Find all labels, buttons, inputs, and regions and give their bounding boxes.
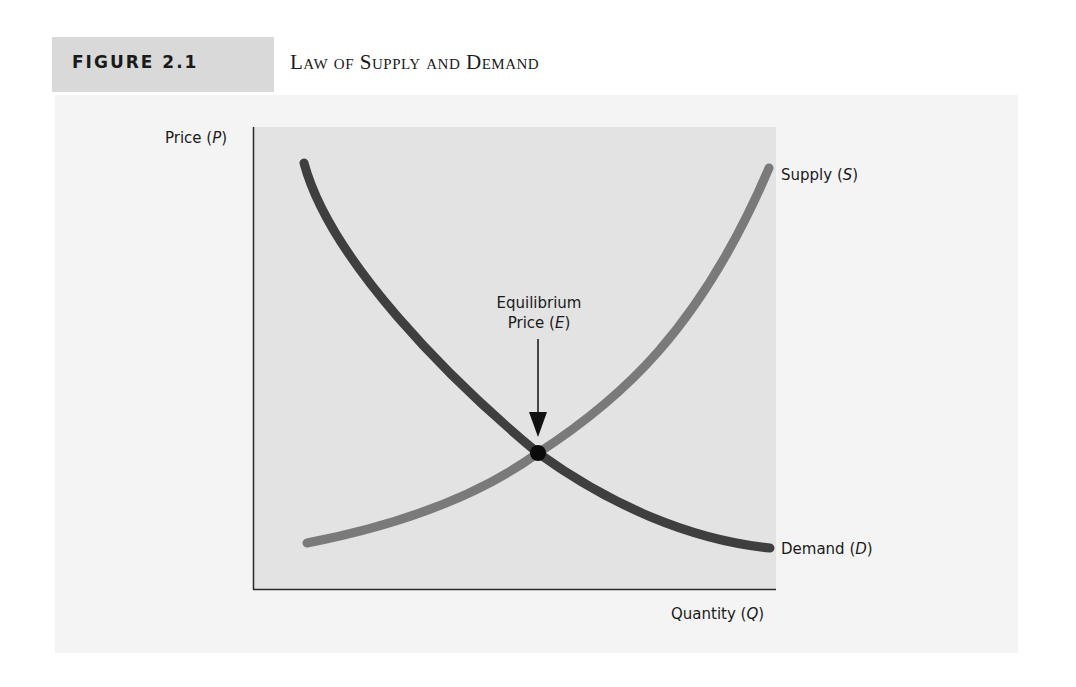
x-axis-label-text: Quantity bbox=[671, 605, 736, 623]
equilibrium-label: Equilibrium Price (E) bbox=[489, 293, 589, 333]
y-axis-label-text: Price bbox=[165, 129, 202, 147]
equilibrium-arrow-head bbox=[529, 412, 547, 437]
demand-curve bbox=[304, 163, 770, 548]
y-axis-label: Price (P) bbox=[165, 129, 227, 147]
equilibrium-label-line2: Price (E) bbox=[489, 313, 589, 333]
y-axis-symbol: P bbox=[212, 129, 221, 147]
demand-symbol: D bbox=[855, 540, 867, 558]
equilibrium-point bbox=[530, 445, 546, 461]
x-axis-label: Quantity (Q) bbox=[671, 605, 764, 623]
chart-svg bbox=[0, 0, 1076, 687]
equilibrium-label-line1: Equilibrium bbox=[489, 293, 589, 313]
equilibrium-price-word: Price bbox=[508, 314, 545, 332]
supply-label: Supply (S) bbox=[781, 166, 858, 184]
equilibrium-symbol: E bbox=[555, 314, 564, 332]
x-axis-symbol: Q bbox=[746, 605, 758, 623]
supply-symbol: S bbox=[843, 166, 853, 184]
supply-label-text: Supply bbox=[781, 166, 832, 184]
demand-label: Demand (D) bbox=[781, 540, 873, 558]
demand-label-text: Demand bbox=[781, 540, 845, 558]
